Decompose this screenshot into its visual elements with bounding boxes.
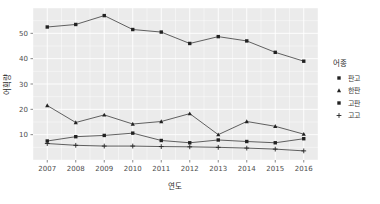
legend-item-1[interactable]: 판고 <box>337 74 361 83</box>
data-point <box>188 141 191 144</box>
legend-label: 고판 <box>348 99 361 108</box>
data-point <box>74 23 77 26</box>
data-point <box>46 25 49 28</box>
legend-marker-triangle <box>337 88 341 92</box>
legend-label: 한판 <box>348 86 361 95</box>
data-point <box>245 140 248 143</box>
legend-entries: 판고한판고판고고 <box>337 74 361 121</box>
data-point <box>302 60 305 63</box>
legend-marker-plus <box>337 113 342 118</box>
x-tick-label: 2008 <box>67 165 85 173</box>
legend-marker-square <box>337 76 340 79</box>
legend-label: 판고 <box>348 74 361 83</box>
legend-item-4[interactable]: 고고 <box>337 112 361 120</box>
x-tick-label: 2012 <box>181 165 199 173</box>
x-tick-label: 2014 <box>238 165 256 173</box>
x-tick-label: 2010 <box>124 165 142 173</box>
x-tick-label: 2015 <box>266 165 284 173</box>
x-axis: 2007200820092010201120122013201420152016 <box>38 160 313 173</box>
data-point <box>131 131 134 134</box>
legend-item-3[interactable]: 고판 <box>337 99 361 108</box>
x-tick-label: 2007 <box>38 165 56 173</box>
data-point <box>274 141 277 144</box>
legend-label: 고고 <box>348 112 361 120</box>
legend-item-2[interactable]: 한판 <box>337 86 361 95</box>
data-point <box>217 138 220 141</box>
y-axis-title: 어획량 <box>2 74 12 95</box>
y-tick-label: 20 <box>19 106 28 114</box>
data-point <box>245 39 248 42</box>
data-point <box>274 51 277 54</box>
legend-marker-square <box>337 101 340 104</box>
data-point <box>103 134 106 137</box>
data-point <box>302 137 305 140</box>
data-point <box>160 30 163 33</box>
data-point <box>74 135 77 138</box>
line-chart-figure: 1020304050 20072008200920102011201220132… <box>0 0 380 204</box>
y-tick-label: 50 <box>19 30 28 38</box>
x-tick-label: 2013 <box>209 165 227 173</box>
x-tick-label: 2016 <box>295 165 313 173</box>
data-point <box>131 28 134 31</box>
y-tick-label: 30 <box>19 81 28 89</box>
y-axis: 1020304050 <box>19 30 33 139</box>
data-point <box>217 35 220 38</box>
x-tick-label: 2011 <box>152 165 170 173</box>
data-point <box>188 42 191 45</box>
legend-title: 어종 <box>333 58 347 68</box>
data-point <box>160 139 163 142</box>
y-tick-label: 40 <box>19 55 28 63</box>
legend: 어종 판고한판고판고고 <box>333 58 361 120</box>
x-tick-label: 2009 <box>95 165 113 173</box>
y-tick-label: 10 <box>19 131 28 139</box>
x-axis-title: 연도 <box>168 182 182 191</box>
data-point <box>103 14 106 17</box>
